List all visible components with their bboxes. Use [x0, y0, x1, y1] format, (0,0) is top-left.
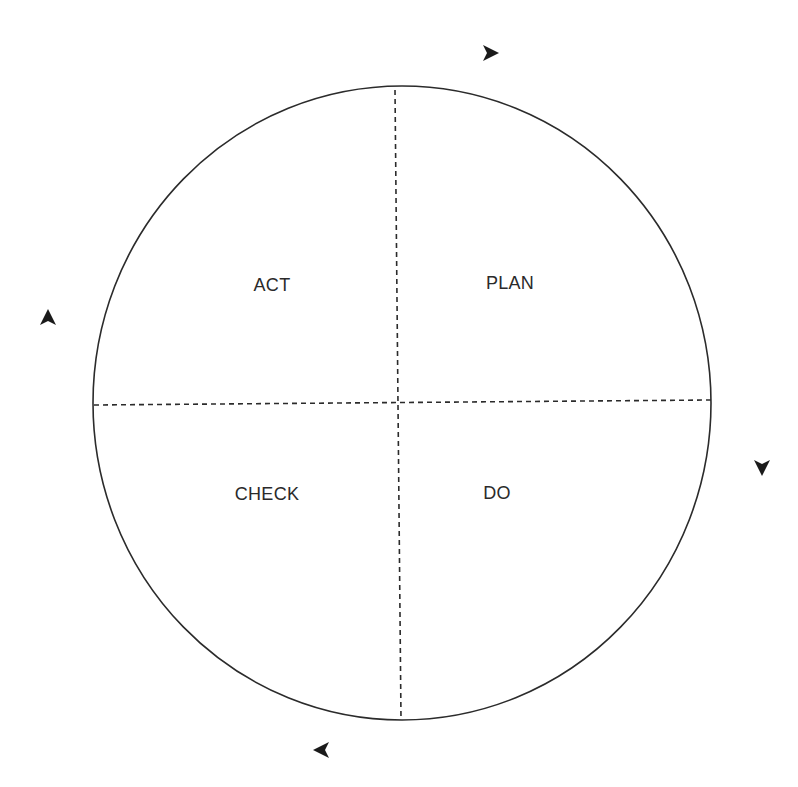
arrow-down-icon	[754, 460, 770, 476]
arrow-left-icon	[313, 742, 329, 758]
arrow-right-icon	[483, 45, 499, 61]
quadrant-label-check: CHECK	[235, 484, 300, 505]
quadrant-label-plan: PLAN	[486, 273, 534, 294]
arrow-up-icon	[40, 309, 56, 325]
vertical-divider	[395, 90, 401, 719]
diagram-graphics	[0, 0, 798, 787]
quadrant-label-do: DO	[483, 483, 511, 504]
horizontal-divider	[94, 400, 711, 405]
pdca-diagram: ACT PLAN CHECK DO	[0, 0, 798, 787]
quadrant-label-act: ACT	[254, 275, 291, 296]
